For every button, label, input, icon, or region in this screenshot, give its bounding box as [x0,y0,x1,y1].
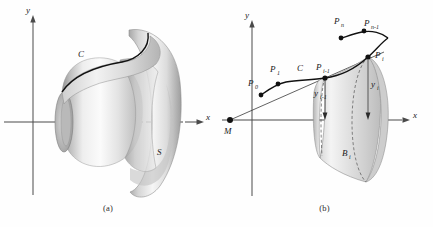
panel-b-label-pi-minus-1: P [315,62,322,72]
panel-a-drawing: y x C S [0,0,216,203]
panel-b-label-p1: P [269,64,276,74]
panel-a-x-axis-label: x [205,112,210,122]
panel-b-label-p0-sub: 0 [255,84,258,90]
panel-b-point-pn [339,36,344,41]
figure-container: y x C S ( [0,0,433,227]
panel-b-label-pn-group: P n [333,16,344,28]
panel-b-label-pn: P [333,16,340,26]
panel-b-label-pn-sub: n [341,22,344,28]
panel-b-caption: (b) [216,203,433,213]
panel-b-label-pi: P [374,50,381,60]
panel-a-y-axis-arrow [30,15,35,23]
panel-a-caption: (a) [0,203,216,213]
panel-b-y-axis-label: y [244,10,249,20]
panel-b-label-band: B [342,148,348,158]
panel-b: y x [216,0,433,227]
panel-b-y-axis-arrow [249,20,254,28]
panel-a-surface-label: S [157,147,162,157]
panel-b-label-pi-minus-1-group: P i-1 [315,62,330,74]
panel-b-label-curve-c: C [297,63,304,73]
panel-b-label-p1-group: P 1 [269,64,280,76]
panel-b-point-p1 [276,82,281,87]
panel-b-drawing: y x [216,0,433,203]
panel-b-label-m: M [223,126,232,136]
panel-b-point-p0 [259,93,264,98]
panel-a-x-axis-arrow [197,119,205,124]
panel-b-label-p0: P [247,78,254,88]
panel-b-label-y-i: y [370,79,375,89]
panel-b-point-m [227,117,233,123]
panel-b-label-pi-minus-1-sub: i-1 [323,68,330,74]
panel-b-label-pi-sub: i [382,56,384,62]
panel-b-label-y-i-minus-1: y [313,88,318,98]
panel-a-y-axis-label: y [25,5,30,15]
panel-b-point-pi-minus-1 [322,75,327,80]
panel-b-point-pn-minus-1 [362,29,367,34]
panel-b-point-pi [365,54,370,59]
panel-b-x-axis-label: x [412,110,417,120]
panel-b-label-y-i-minus-1-sub: i-1 [320,94,327,100]
panel-b-label-pn-minus-1: P [363,18,370,28]
panel-b-label-p1-sub: 1 [277,70,280,76]
panel-b-x-axis-arrow [403,117,411,122]
panel-a-left-opening-inner [61,98,71,146]
panel-b-label-pi-group: P i [374,50,384,62]
panel-a: y x C S [0,0,216,227]
panel-b-label-pn-minus-1-sub: n-1 [371,24,379,30]
panel-b-label-pn-minus-1-group: P n-1 [363,18,379,30]
panel-b-band-surface [320,57,381,182]
panel-a-curve-label: C [78,49,85,59]
